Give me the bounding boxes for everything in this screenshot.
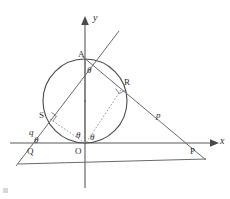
point-label-r: R	[124, 78, 130, 87]
angle-label-theta-o-right: θ	[90, 133, 94, 142]
geometry-diagram: y x A R S Q P O p q θ θ θ θ	[0, 0, 230, 199]
point-label-o: O	[75, 147, 82, 156]
angle-label-theta-q: θ	[34, 136, 38, 145]
diagram-canvas	[0, 0, 230, 199]
secant-line-A-R-P	[83, 57, 206, 160]
segment-label-p: p	[156, 111, 161, 120]
point-label-a: A	[78, 50, 85, 59]
x-axis-arrowhead	[210, 139, 219, 147]
segment-label-q: q	[29, 128, 34, 137]
y-axis-arrowhead	[81, 16, 89, 25]
y-axis-label: y	[93, 13, 97, 23]
point-label-q: Q	[27, 147, 34, 156]
corner-artifact	[3, 188, 8, 193]
x-axis-label: x	[220, 136, 224, 146]
point-label-p: P	[190, 147, 195, 156]
angle-label-theta-a: θ	[87, 66, 91, 75]
point-label-s: S	[39, 111, 44, 120]
transversal-line-QP	[18, 159, 206, 164]
angle-label-theta-o-left: θ	[76, 131, 80, 140]
